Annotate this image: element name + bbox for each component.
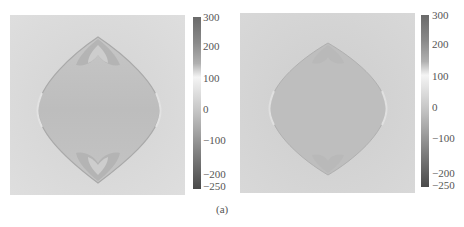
left-colorbar-tick-300: 300 (203, 12, 220, 23)
right-field-image (240, 13, 415, 193)
right-colorbar-tick-minus250: −250 (432, 180, 455, 191)
right-colorbar-tick-200: 200 (432, 39, 449, 50)
right-colorbar-tick-minus200: −200 (432, 168, 455, 179)
left-colorbar (193, 17, 201, 189)
right-field-plot (240, 13, 415, 193)
left-field-image (10, 15, 185, 195)
left-colorbar-tick-100: 100 (203, 73, 220, 84)
left-field-plot (10, 15, 185, 195)
right-colorbar (421, 15, 429, 187)
right-colorbar-tick-0: 0 (432, 102, 438, 113)
right-colorbar-tick-300: 300 (432, 10, 449, 21)
right-colorbar-tick-100: 100 (432, 71, 449, 82)
right-colorbar-tick-minus100: −100 (432, 133, 455, 144)
left-colorbar-tick-0: 0 (203, 104, 209, 115)
left-colorbar-tick-minus250: −250 (203, 181, 226, 192)
left-colorbar-tick-minus100: −100 (203, 135, 226, 146)
figure-caption: (a) (216, 203, 228, 215)
left-colorbar-tick-200: 200 (203, 41, 220, 52)
left-colorbar-tick-minus200: −200 (203, 169, 226, 180)
